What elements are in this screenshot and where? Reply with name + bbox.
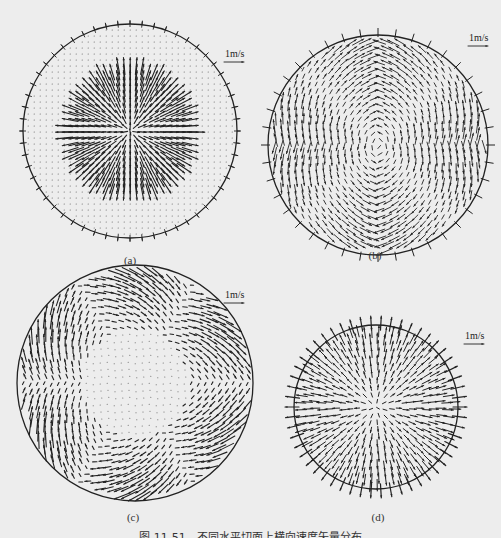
panel-b-label: (b) [369, 249, 382, 261]
figure-caption: 图 11-51 不同水平切面上横向速度矢量分布 [0, 528, 501, 538]
scale-arrows [224, 45, 488, 345]
panel-c-scale-label: 1m/s [225, 289, 244, 300]
panel-b-scale-label: 1m/s [469, 32, 488, 43]
velocity-vector-figure [0, 0, 501, 538]
panel-d-label: (d) [372, 511, 385, 523]
panel-c-vector-field [17, 265, 253, 501]
panel-a-scale-label: 1m/s [225, 48, 244, 59]
panel-d-scale-label: 1m/s [465, 330, 484, 341]
panel-b-vector-field [261, 28, 495, 262]
panel-d-vector-field [285, 316, 467, 498]
panel-c-label: (c) [127, 511, 139, 523]
panel-a-label: (a) [124, 254, 136, 266]
panel-a-vector-field [19, 20, 241, 242]
